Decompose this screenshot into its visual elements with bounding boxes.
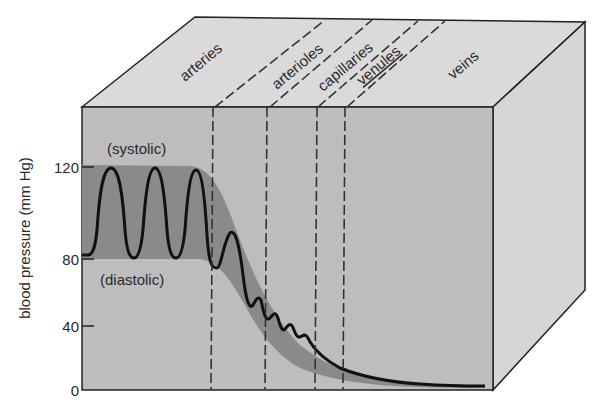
- y-axis-label: blood pressure (mm Hg): [16, 157, 33, 319]
- blood-pressure-diagram: arteries arterioles capillaries venules …: [0, 0, 605, 418]
- tick-label-120: 120: [54, 159, 79, 176]
- tick-label-40: 40: [62, 318, 79, 335]
- diagram-canvas: arteries arterioles capillaries venules …: [0, 0, 605, 418]
- tick-label-0: 0: [71, 382, 79, 399]
- tick-label-80: 80: [62, 251, 79, 268]
- diastolic-label: (diastolic): [100, 271, 164, 288]
- systolic-label: (systolic): [107, 140, 166, 157]
